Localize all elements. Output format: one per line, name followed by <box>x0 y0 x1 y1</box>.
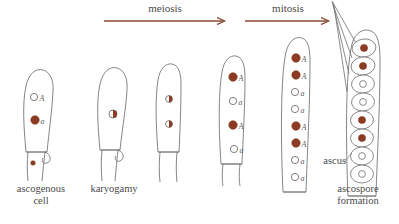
karyogamy-label: karyogamy <box>78 183 150 195</box>
allele-label-A-2: A <box>238 122 244 131</box>
ascospore-7 <box>350 147 374 166</box>
allele-label-A: A <box>39 94 45 103</box>
crozier-nucleus <box>31 161 36 166</box>
allele-label-A-4: A <box>301 140 307 149</box>
nucleus-open-A <box>30 93 37 100</box>
cell-3-meiosis-i <box>156 64 181 182</box>
nucleus-open-a-2 <box>230 145 237 152</box>
spore-nucleus-open <box>360 81 367 88</box>
ascospore-8 <box>350 165 373 183</box>
allele-label-a: a <box>41 117 45 126</box>
nucleus-open-a-1 <box>229 97 236 104</box>
spore-nucleus-filled <box>360 44 367 51</box>
nucleus-open-a-2 <box>291 105 298 112</box>
meiosis-arrow-label: meiosis <box>130 2 200 14</box>
cell-4-meiosis-ii: A a A a <box>219 56 245 186</box>
spore-nucleus-filled <box>358 134 365 141</box>
cell-2-nuclei <box>109 110 117 118</box>
nucleus-filled-A-1 <box>229 73 237 81</box>
allele-label-A-3: A <box>301 123 307 132</box>
allele-label-A-1: A <box>301 55 307 64</box>
allele-label-a-3: a <box>301 157 305 166</box>
ascospore-formation-label: ascospore formation <box>322 183 394 207</box>
nucleus-filled-A-2 <box>292 71 300 79</box>
allele-label-a-4: a <box>301 174 305 183</box>
allele-label-a-2: a <box>240 146 244 155</box>
ascogenous-cell-label: ascogenous cell <box>5 183 77 207</box>
nucleus-filled-a <box>31 116 39 124</box>
ascus-label: ascus <box>308 155 346 167</box>
spore-nucleus-open <box>359 153 366 160</box>
nucleus-filled-A-3 <box>292 122 300 130</box>
allele-label-A-2: A <box>301 72 307 81</box>
nucleus-open-a-3 <box>291 156 298 163</box>
spore-nucleus-open <box>359 171 366 178</box>
cell-1-ascogenous: A a <box>24 70 53 181</box>
nucleus-open-a-4 <box>291 173 298 180</box>
cell-5-mitosis: A A a a A A a a <box>281 38 310 192</box>
figure-canvas: A a <box>0 0 399 224</box>
spore-nucleus-open <box>360 99 367 106</box>
mitosis-arrow-label: mitosis <box>253 2 323 14</box>
nucleus-open-a-1 <box>291 88 298 95</box>
allele-label-A-1: A <box>238 74 244 83</box>
allele-label-a-1: a <box>239 98 243 107</box>
allele-label-a-2: a <box>301 106 305 115</box>
cell-2-karyogamy <box>98 68 127 181</box>
allele-label-a-1: a <box>301 89 305 98</box>
spore-nucleus-filled <box>359 62 366 69</box>
spore-nucleus-filled <box>358 116 365 123</box>
nucleus-filled-A-4 <box>292 139 300 147</box>
nucleus-filled-A-2 <box>229 121 237 129</box>
nucleus-filled-A-1 <box>292 54 300 62</box>
